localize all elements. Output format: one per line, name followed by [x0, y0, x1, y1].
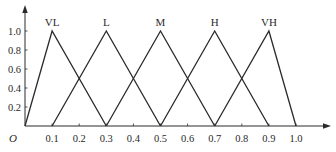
chart-canvas: 0.10.20.30.40.50.60.70.80.91.00.20.40.60… [0, 0, 336, 152]
x-tick-label: 0.8 [235, 133, 248, 144]
peak-label-vl: VL [45, 16, 60, 28]
membership-h [161, 31, 269, 126]
y-tick-label: 0.6 [8, 64, 21, 75]
origin-label: O [9, 132, 17, 144]
y-tick-label: 1.0 [8, 26, 21, 37]
peak-label-vh: VH [261, 16, 277, 28]
membership-vl [25, 31, 106, 126]
x-axis-arrow-icon [323, 123, 331, 128]
membership-series [25, 31, 296, 126]
y-tick-label: 0.4 [8, 83, 22, 94]
y-tick-label: 0.8 [8, 45, 21, 56]
x-tick-label: 0.7 [208, 133, 221, 144]
x-tick-label: 0.6 [181, 133, 194, 144]
y-tick-label: 0.2 [8, 102, 21, 113]
x-tick-label: 0.5 [154, 133, 167, 144]
x-tick-label: 0.1 [46, 133, 59, 144]
membership-vh [215, 31, 296, 126]
x-tick-label: 1.0 [289, 133, 302, 144]
x-tick-label: 0.4 [127, 133, 141, 144]
axes [22, 5, 331, 129]
membership-m [106, 31, 214, 126]
x-tick-label: 0.3 [100, 133, 113, 144]
peak-label-h: H [211, 16, 219, 28]
peak-label-m: M [156, 16, 166, 28]
x-tick-label: 0.2 [73, 133, 86, 144]
fuzzy-membership-chart: 0.10.20.30.40.50.60.70.80.91.00.20.40.60… [0, 0, 336, 152]
x-tick-label: 0.9 [262, 133, 275, 144]
y-axis-arrow-icon [22, 5, 27, 13]
peak-label-l: L [103, 16, 110, 28]
membership-l [52, 31, 160, 126]
